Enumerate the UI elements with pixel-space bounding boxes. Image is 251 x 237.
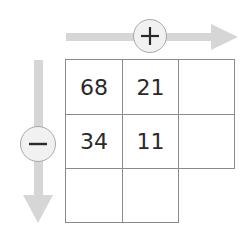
grid-cell-r1c1: 68 [65, 59, 123, 115]
grid-cell-r3c1 [65, 168, 123, 223]
grid-cell-r2c1: 34 [65, 114, 123, 169]
grid-cell-r1c2: 21 [122, 59, 179, 115]
plus-icon [133, 19, 167, 53]
minus-icon [20, 126, 56, 162]
grid-cell-r2c3 [178, 114, 235, 169]
grid-cell-r2c2: 11 [122, 114, 179, 169]
grid-cell-r1c3 [178, 59, 235, 115]
grid-cell-r3c2 [122, 168, 179, 223]
